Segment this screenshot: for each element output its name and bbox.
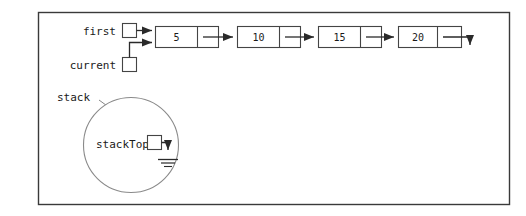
diagram-canvas: first current 5 10 15 20 stack <box>0 0 526 216</box>
linked-list-stack-diagram: first current 5 10 15 20 stack <box>0 0 526 216</box>
first-pointer-box <box>123 24 137 38</box>
node-value: 5 <box>173 32 179 43</box>
node-value: 20 <box>412 32 424 43</box>
stack-top-box <box>148 136 162 150</box>
node-value: 10 <box>252 32 264 43</box>
first-pointer-label: first <box>83 25 116 38</box>
stack-label: stack <box>57 91 90 104</box>
current-pointer-label: current <box>70 59 116 72</box>
node-value: 15 <box>333 32 345 43</box>
stack-top-label: stackTop <box>96 138 149 151</box>
current-pointer-box <box>123 58 137 72</box>
